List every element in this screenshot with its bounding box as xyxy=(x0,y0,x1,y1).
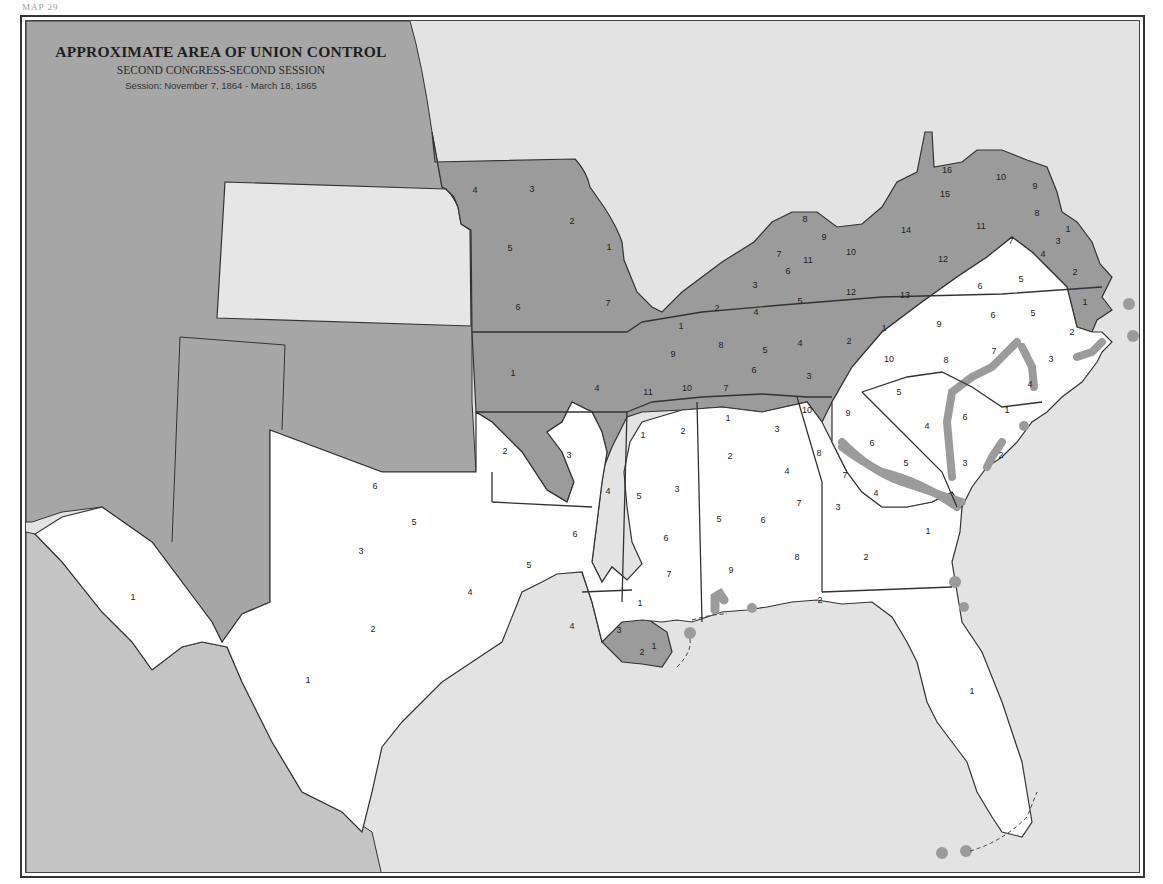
district-label-virginia: 5 xyxy=(1018,274,1023,284)
district-label-mississippi: 3 xyxy=(674,484,679,494)
district-label-tennessee: 2 xyxy=(846,336,851,346)
district-label-mississippi: 4 xyxy=(605,486,610,496)
district-label-arkansas: 1 xyxy=(510,368,515,378)
district-label-kentucky: 1 xyxy=(678,321,683,331)
district-label-missouri: 3 xyxy=(529,184,534,194)
district-label-south-carolina: 6 xyxy=(869,438,874,448)
district-label-north-carolina: 9 xyxy=(936,319,941,329)
district-label-tennessee: 4 xyxy=(797,338,802,348)
district-label-tennessee: 7 xyxy=(723,383,728,393)
district-label-virginia: 15 xyxy=(940,189,950,199)
district-label-alabama: 7 xyxy=(796,498,801,508)
page-number: MAP 29 xyxy=(22,2,58,12)
district-label-south-carolina: 3 xyxy=(962,458,967,468)
district-label-alabama: 9 xyxy=(728,565,733,575)
district-label-arkansas: 3 xyxy=(566,450,571,460)
district-label-alabama: 3 xyxy=(774,424,779,434)
district-label-virginia: 14 xyxy=(901,225,911,235)
district-label-arkansas: 4 xyxy=(594,383,599,393)
district-label-virginia: 4 xyxy=(1040,249,1045,259)
district-label-kentucky: 5 xyxy=(797,296,802,306)
district-label-alabama: 6 xyxy=(760,515,765,525)
district-label-south-carolina: 4 xyxy=(924,421,929,431)
district-label-north-carolina: 6 xyxy=(990,310,995,320)
district-label-virginia: 8 xyxy=(1034,208,1039,218)
district-label-virginia: 13 xyxy=(900,290,910,300)
district-label-north-carolina: 3 xyxy=(1048,354,1053,364)
district-label-louisiana: 3 xyxy=(616,625,621,635)
district-label-mississippi: 1 xyxy=(640,430,645,440)
district-label-arkansas: 6 xyxy=(572,529,577,539)
district-label-kentucky: 2 xyxy=(714,303,719,313)
map-frame: 4325167891071163251241985421631110716109… xyxy=(20,15,1145,878)
district-label-georgia: 4 xyxy=(873,488,878,498)
district-label-georgia: 10 xyxy=(802,405,812,415)
session-dates: Session: November 7, 1864 - March 18, 18… xyxy=(26,80,416,91)
district-label-mississippi: 5 xyxy=(636,491,641,501)
district-label-alabama: 4 xyxy=(784,466,789,476)
district-label-virginia: 12 xyxy=(938,254,948,264)
district-label-kentucky: 4 xyxy=(753,307,758,317)
district-label-mississippi: 6 xyxy=(663,533,668,543)
district-label-kentucky: 6 xyxy=(785,266,790,276)
district-label-tennessee: 1 xyxy=(881,323,886,333)
district-label-texas: 1 xyxy=(305,675,310,685)
district-label-texas: 6 xyxy=(372,481,377,491)
district-label-virginia: 7 xyxy=(1008,236,1013,246)
district-label-south-carolina: 9 xyxy=(845,408,850,418)
district-label-north-carolina: 10 xyxy=(884,354,894,364)
district-label-missouri: 4 xyxy=(472,185,477,195)
district-label-alabama: 1 xyxy=(725,413,730,423)
district-label-alabama: 5 xyxy=(716,514,721,524)
district-label-kentucky: 7 xyxy=(776,249,781,259)
district-label-missouri: 6 xyxy=(515,302,520,312)
district-label-missouri: 5 xyxy=(507,243,512,253)
district-label-kentucky: 12 xyxy=(846,287,856,297)
district-label-texas: 3 xyxy=(358,546,363,556)
district-label-georgia: 2 xyxy=(863,552,868,562)
district-label-missouri: 2 xyxy=(569,216,574,226)
district-label-south-carolina: 6 xyxy=(962,412,967,422)
district-label-kentucky: 3 xyxy=(752,280,757,290)
district-label-georgia: 1 xyxy=(925,526,930,536)
district-label-virginia: 11 xyxy=(976,221,985,231)
district-label-texas: 2 xyxy=(370,624,375,634)
district-label-south-carolina: 2 xyxy=(998,450,1003,460)
district-label-arkansas: 5 xyxy=(526,560,531,570)
district-label-kentucky: 11 xyxy=(803,255,812,265)
district-label-south-carolina: 1 xyxy=(1004,405,1009,415)
district-label-virginia: 3 xyxy=(1055,236,1060,246)
district-label-north-carolina: 4 xyxy=(1027,379,1032,389)
district-label-mississippi: 7 xyxy=(666,569,671,579)
map-title-block: APPROXIMATE AREA OF UNION CONTROL SECOND… xyxy=(26,43,416,91)
district-label-missouri: 1 xyxy=(606,242,611,252)
district-label-florida: 1 xyxy=(969,686,974,696)
district-label-north-carolina: 5 xyxy=(1030,308,1035,318)
district-label-south-carolina: 5 xyxy=(896,387,901,397)
district-label-tennessee: 5 xyxy=(762,345,767,355)
district-label-virginia: 1 xyxy=(1065,224,1070,234)
district-label-tennessee: 6 xyxy=(751,365,756,375)
district-label-georgia: 3 xyxy=(835,502,840,512)
district-label-arkansas: 2 xyxy=(502,446,507,456)
district-label-kentucky: 10 xyxy=(846,247,856,257)
district-label-tennessee: 3 xyxy=(806,371,811,381)
map-svg: 4325167891071163251241985421631110716109… xyxy=(26,21,1140,873)
district-label-louisiana: 1 xyxy=(651,641,656,651)
district-label-south-carolina: 5 xyxy=(903,458,908,468)
district-label-virginia: 2 xyxy=(1072,267,1077,277)
district-label-north-carolina: 2 xyxy=(1069,327,1074,337)
district-label-kentucky: 9 xyxy=(821,232,826,242)
district-label-virginia: 6 xyxy=(977,281,982,291)
district-label-texas: 5 xyxy=(411,517,416,527)
map-canvas: 4325167891071163251241985421631110716109… xyxy=(25,20,1140,873)
district-label-tennessee: 10 xyxy=(682,383,692,393)
district-label-alabama: 8 xyxy=(794,552,799,562)
district-label-louisiana: 4 xyxy=(569,621,574,631)
kansas xyxy=(217,182,471,326)
district-label-north-carolina: 1 xyxy=(1082,297,1087,307)
district-label-tennessee: 11 xyxy=(643,387,652,397)
district-label-alabama: 2 xyxy=(727,451,732,461)
district-label-virginia: 10 xyxy=(996,172,1006,182)
district-label-mississippi: 2 xyxy=(680,426,685,436)
